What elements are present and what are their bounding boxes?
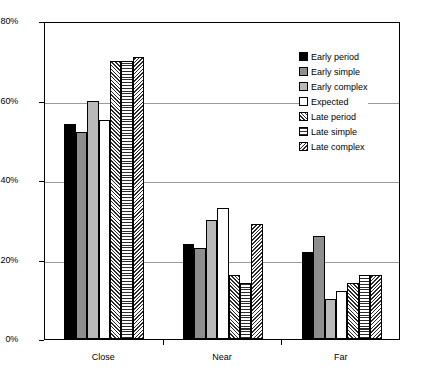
legend-swatch-icon [299,82,308,91]
bar-far-late-complex [370,275,381,339]
legend-item-late-period[interactable]: Late period [299,110,368,123]
x-axis-label-near: Near [182,352,262,362]
legend-swatch-icon [299,112,308,121]
legend-item-early-simple[interactable]: Early simple [299,65,368,78]
x-axis-label-close: Close [63,352,143,362]
x-axis-label-far: Far [301,352,381,362]
legend-swatch-icon [299,52,308,61]
legend-item-late-complex[interactable]: Late complex [299,140,368,153]
bar-far-early-simple [313,236,324,339]
bar-near-late-period [229,275,240,339]
y-axis-tick-label: 0% [0,335,18,344]
bar-close-late-simple [121,61,132,339]
legend-swatch-icon [299,142,308,151]
legend-swatch-icon [299,67,308,76]
legend-item-late-simple[interactable]: Late simple [299,125,368,138]
legend-item-expected[interactable]: Expected [299,95,368,108]
bar-chart: 0%20%40%60%80% CloseNearFar Early period… [0,0,425,380]
legend-label: Late complex [311,142,365,152]
legend-swatch-icon [299,97,308,106]
legend-label: Early period [311,52,359,62]
y-axis-tick-label: 40% [0,176,18,185]
bar-far-late-period [347,283,358,339]
chart-legend: Early periodEarly simpleEarly complexExp… [299,50,368,153]
bar-close-early-complex [87,101,98,340]
legend-label: Early complex [311,82,368,92]
bar-near-late-complex [251,224,262,339]
bar-close-late-complex [133,57,144,339]
bar-far-expected [336,291,347,339]
bar-close-late-period [110,61,121,339]
y-axis-tick-label: 60% [0,97,18,106]
legend-swatch-icon [299,127,308,136]
legend-label: Late simple [311,127,357,137]
bar-near-early-complex [206,220,217,339]
legend-label: Early simple [311,67,360,77]
bar-group-close [64,23,144,339]
y-axis-tick-label: 20% [0,256,18,265]
bar-far-early-complex [325,299,336,339]
bar-close-early-simple [76,132,87,339]
legend-item-early-complex[interactable]: Early complex [299,80,368,93]
legend-label: Late period [311,112,356,122]
bar-far-late-simple [359,275,370,339]
bar-far-early-period [302,252,313,339]
bar-near-late-simple [240,283,251,339]
bar-near-early-period [183,244,194,339]
bar-group-near [183,23,263,339]
x-axis-tick-mark [281,340,282,345]
y-axis-tick-label: 80% [0,17,18,26]
x-axis-tick-mark [163,340,164,345]
y-axis-tick-mark [39,340,44,341]
bar-close-expected [99,120,110,339]
bar-near-early-simple [194,248,205,339]
bar-close-early-period [64,124,75,339]
legend-label: Expected [311,97,349,107]
legend-item-early-period[interactable]: Early period [299,50,368,63]
bar-near-expected [217,208,228,339]
